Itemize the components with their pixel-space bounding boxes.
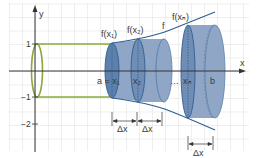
x-axis-label: x [240, 58, 245, 68]
label-delta-x-3: Δx [193, 148, 204, 158]
y-axis-label: y [39, 9, 44, 19]
label-xn: xₙ [183, 76, 192, 86]
label-x2: x₂ [133, 76, 142, 86]
y-tick-1: 1 [26, 39, 31, 49]
label-delta-x-2: Δx [142, 124, 153, 134]
label-a-eq-x1: a = x₁ [97, 76, 120, 86]
label-b: b [210, 76, 215, 86]
label-f-x2: f(x₂) [127, 25, 144, 35]
solids-of-revolution-diagram: y x 1 −1 −2 f(x₁) f(x₂) f f(xₙ) a = x₁ x… [0, 0, 257, 158]
label-f-xn: f(xₙ) [172, 12, 189, 22]
label-delta-x-1: Δx [117, 124, 128, 134]
y-tick-minus-1: −1 [21, 92, 31, 102]
y-tick-minus-2: −2 [21, 119, 31, 129]
label-f-x1: f(x₁) [101, 29, 117, 39]
label-dots: … [170, 76, 179, 86]
